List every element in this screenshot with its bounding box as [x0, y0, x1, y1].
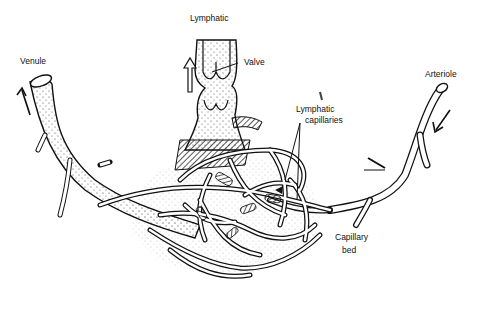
- capillary-mesh: [100, 150, 330, 276]
- capillary-bed-diagram: Lymphatic Valve Venule Arteriole Lymphat…: [0, 0, 484, 310]
- printing-mark: [320, 92, 322, 100]
- label-venule: Venule: [20, 56, 46, 66]
- label-lymphatic-capillaries-2: capillaries: [305, 115, 343, 125]
- label-valve: Valve: [244, 57, 265, 67]
- diagram-drawing: [0, 0, 484, 310]
- label-lymphatic-capillaries-1: Lymphatic: [296, 104, 334, 114]
- label-capillary-bed-1: Capillary: [335, 232, 368, 242]
- venule-flow-arrow-icon: [17, 88, 30, 115]
- lymph-flow-arrow-icon: [184, 58, 196, 92]
- label-capillary-bed-2: bed: [342, 245, 356, 255]
- label-arteriole: Arteriole: [425, 69, 457, 79]
- label-lymphatic: Lymphatic: [190, 13, 228, 23]
- arteriole-flow-arrow-icon: [433, 110, 450, 132]
